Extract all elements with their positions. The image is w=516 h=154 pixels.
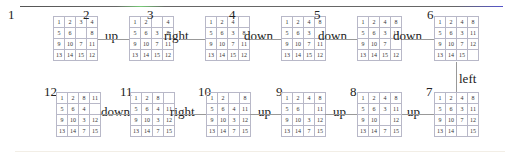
- tile: 10: [65, 39, 76, 50]
- tile: 9: [435, 115, 446, 126]
- bottom-rule: [15, 151, 505, 152]
- tile: 10: [369, 115, 380, 126]
- tile: 5: [358, 28, 369, 39]
- tile: 8: [315, 93, 326, 104]
- tile: 3: [229, 115, 240, 126]
- tile: 11: [90, 93, 101, 104]
- move-label: down: [101, 105, 130, 118]
- move-label: right: [164, 29, 189, 42]
- tile: 15: [391, 126, 402, 137]
- tile: 7: [229, 126, 240, 137]
- tile: 1: [358, 17, 369, 28]
- tile: 12: [90, 115, 101, 126]
- tile: 1: [358, 93, 369, 104]
- tile: 13: [358, 50, 369, 61]
- puzzle-grid: 128115649103121314715: [56, 92, 101, 137]
- tile: 7: [76, 39, 87, 50]
- tile: 12: [239, 50, 250, 61]
- tile: 1: [206, 17, 217, 28]
- tile: 7: [304, 39, 315, 50]
- tile: 2: [142, 93, 153, 104]
- tile: 6: [293, 28, 304, 39]
- empty-tile: [380, 115, 391, 126]
- tile: 5: [57, 104, 68, 115]
- tile: 4: [380, 17, 391, 28]
- tile: 9: [435, 39, 446, 50]
- tile: 13: [54, 50, 65, 61]
- tile: 8: [468, 93, 479, 104]
- state-number: 7: [426, 85, 433, 98]
- tile: 15: [380, 50, 391, 61]
- move-label: up: [407, 105, 420, 118]
- tile: 15: [164, 126, 175, 137]
- tile: 5: [435, 104, 446, 115]
- tile: 8: [240, 93, 251, 104]
- tile: 5: [206, 28, 217, 39]
- empty-tile: [239, 17, 250, 28]
- tile: 9: [358, 115, 369, 126]
- state-number: 5: [314, 8, 321, 21]
- tile: 3: [457, 28, 468, 39]
- tile: 9: [130, 39, 141, 50]
- arrow-right-icon: [325, 39, 357, 40]
- tile: 6: [65, 28, 76, 39]
- tile: 8: [87, 28, 98, 39]
- tile: 10: [141, 39, 152, 50]
- tile: 3: [304, 28, 315, 39]
- tile: 10: [68, 115, 79, 126]
- puzzle-grid: 124856119103121314715: [281, 92, 326, 137]
- tile: 7: [457, 115, 468, 126]
- empty-tile: [90, 104, 101, 115]
- tile: 2: [65, 17, 76, 28]
- tile: 6: [446, 104, 457, 115]
- tile: 7: [380, 126, 391, 137]
- puzzle-grid: 128564119103121314715: [206, 92, 251, 137]
- tile: 3: [228, 28, 239, 39]
- tile: 5: [282, 28, 293, 39]
- tile: 6: [142, 104, 153, 115]
- move-label: up: [333, 105, 346, 118]
- tile: 10: [369, 39, 380, 50]
- tile: 13: [358, 126, 369, 137]
- tile: 5: [131, 104, 142, 115]
- tile: 13: [207, 126, 218, 137]
- move-label: down: [244, 29, 273, 42]
- tile: 7: [79, 126, 90, 137]
- tile: 5: [435, 28, 446, 39]
- tile: 15: [240, 126, 251, 137]
- empty-tile: [164, 93, 175, 104]
- tile: 7: [304, 126, 315, 137]
- move-label: left: [459, 72, 476, 85]
- arrow-left-icon: [325, 114, 357, 115]
- tile: 10: [218, 115, 229, 126]
- puzzle-grid: 124856311910712131415: [434, 16, 479, 61]
- tile: 9: [131, 115, 142, 126]
- tile: 9: [54, 39, 65, 50]
- tile: 15: [315, 126, 326, 137]
- tile: 4: [163, 17, 174, 28]
- tile: 4: [380, 93, 391, 104]
- tile: 12: [315, 115, 326, 126]
- arrow-left-icon: [100, 114, 130, 115]
- tile: 2: [446, 93, 457, 104]
- tile: 15: [228, 50, 239, 61]
- arrow-left-icon: [402, 114, 434, 115]
- tile: 2: [369, 17, 380, 28]
- tile: 7: [380, 39, 391, 50]
- tile: 13: [57, 126, 68, 137]
- arrow-right-icon: [180, 39, 205, 40]
- tile: 11: [468, 104, 479, 115]
- tile: 14: [68, 126, 79, 137]
- tile: 8: [391, 17, 402, 28]
- tile: 10: [293, 39, 304, 50]
- tile: 2: [217, 17, 228, 28]
- puzzle-grid: 128564119103121314715: [130, 92, 175, 137]
- tile: 8: [153, 93, 164, 104]
- tile: 9: [207, 115, 218, 126]
- puzzle-grid: 123456891071113141512: [53, 16, 98, 61]
- tile: 2: [293, 93, 304, 104]
- tile: 2: [293, 17, 304, 28]
- tile: 11: [391, 104, 402, 115]
- tile: 3: [79, 115, 90, 126]
- tile: 7: [153, 126, 164, 137]
